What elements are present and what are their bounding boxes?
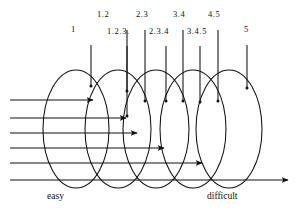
leader-dot-4-5 — [217, 100, 220, 103]
leader-dot-1 — [90, 85, 93, 88]
easy-label: easy — [47, 192, 64, 202]
region-label-5: 5 — [244, 25, 249, 34]
region-label-3-4: 3.4 — [173, 10, 185, 19]
region-label-2-3-4: 2.3.4 — [149, 27, 169, 36]
leader-lines-group — [90, 30, 249, 118]
difficult-label: difficult — [207, 192, 237, 202]
region-label-3-4-5: 3.4.5 — [187, 27, 207, 36]
diagram-figure: 1 1.2 1.2.3. 2.3 2.3.4 3.4 3.4.5 4.5 5 e… — [0, 0, 300, 215]
region-label-4-5: 4.5 — [208, 10, 220, 19]
leader-dot-1-2-3 — [126, 115, 129, 118]
leader-dot-5 — [246, 87, 249, 90]
ellipses-group — [43, 70, 262, 188]
region-label-1: 1 — [71, 25, 76, 34]
set-ellipse-2 — [85, 70, 151, 188]
leader-dot-3-4-5 — [199, 101, 202, 104]
leader-dot-2-3-4 — [165, 100, 168, 103]
region-label-2-3: 2.3 — [136, 10, 148, 19]
set-ellipse-4 — [160, 70, 226, 188]
region-label-1-2-3: 1.2.3. — [107, 27, 130, 36]
leader-dot-3-4 — [182, 100, 185, 103]
set-ellipse-5 — [196, 70, 262, 188]
leader-dot-2-3 — [144, 100, 147, 103]
set-ellipse-1 — [43, 70, 109, 188]
region-label-1-2: 1.2 — [97, 10, 109, 19]
set-ellipse-3 — [123, 70, 189, 188]
